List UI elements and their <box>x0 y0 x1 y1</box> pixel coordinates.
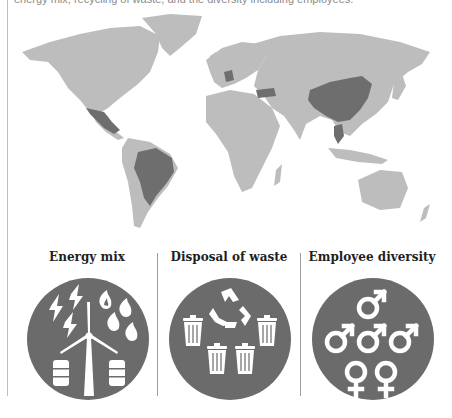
panel-title-employee-diversity: Employee diversity <box>301 250 443 264</box>
left-rule <box>7 0 8 396</box>
australia <box>358 170 408 210</box>
mexico-highlight <box>86 108 120 134</box>
new-zealand <box>420 204 430 222</box>
waste-illustration <box>169 278 291 400</box>
world-map <box>10 12 440 230</box>
intro-text: energy mix, recycling of waste, and the … <box>14 0 353 5</box>
indonesia <box>328 148 388 164</box>
panel-employee-diversity: Employee diversity <box>301 250 443 410</box>
oil-barrel-icon <box>53 360 69 386</box>
energy-mix-illustration <box>27 278 149 400</box>
panel-title-energy-mix: Energy mix <box>16 250 158 264</box>
diversity-illustration <box>312 278 434 400</box>
africa <box>206 90 280 192</box>
thailand-highlight <box>334 124 344 144</box>
panel-title-disposal-of-waste: Disposal of waste <box>158 250 300 264</box>
panel-disposal-of-waste: Disposal of waste <box>158 250 300 410</box>
panel-energy-mix: Energy mix <box>16 250 158 410</box>
north-america <box>22 26 160 114</box>
madagascar <box>274 164 282 186</box>
oil-barrel-icon <box>109 360 125 386</box>
